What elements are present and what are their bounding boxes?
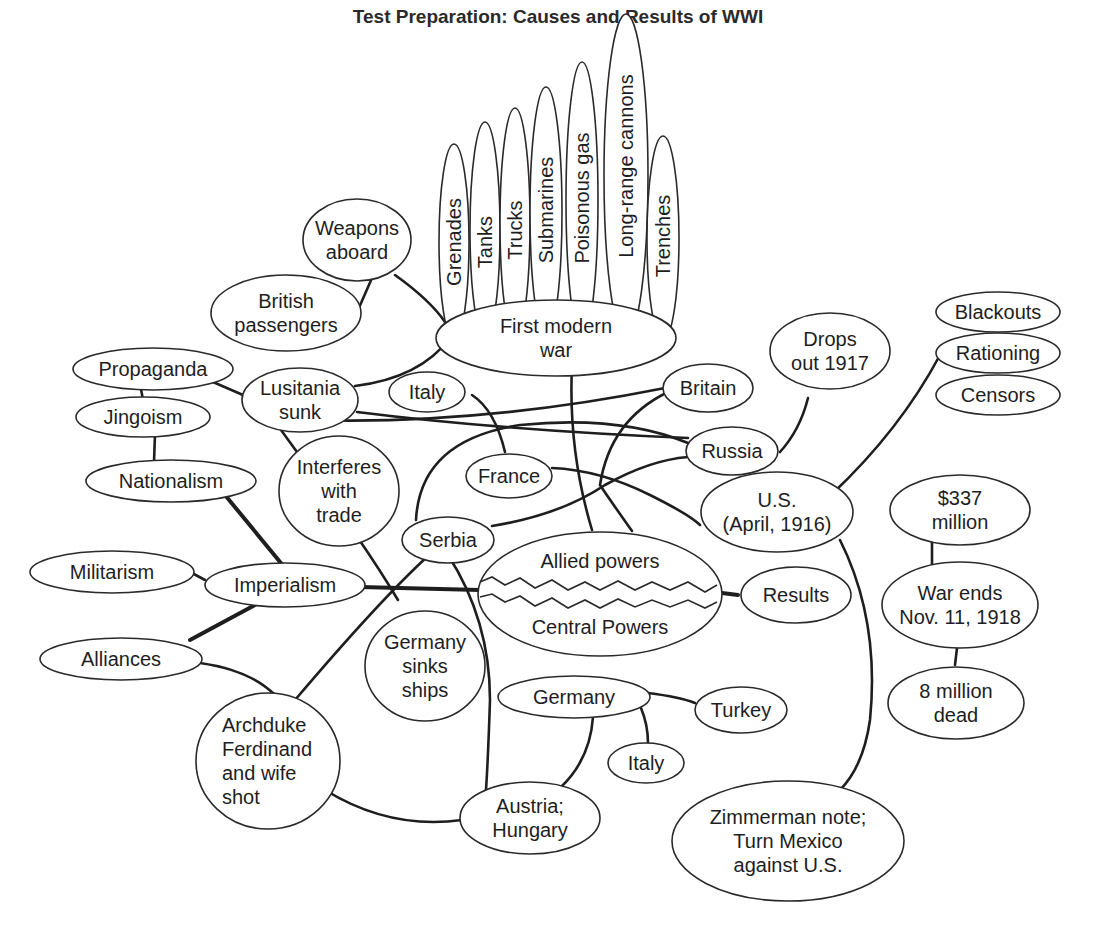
node-propaganda: Propaganda (73, 348, 233, 390)
edge-imperialism-center (360, 587, 480, 590)
node-jingoism: Jingoism (76, 397, 210, 437)
edge-nationalism-imperialism (225, 495, 285, 568)
node-britain: Britain (663, 364, 753, 412)
node-submarines: Submarines (532, 110, 560, 310)
node-militarism: Militarism (30, 551, 194, 593)
edge-russia-dropsout (780, 398, 808, 452)
node-interferes: Interferes with trade (279, 436, 399, 546)
node-war-ends: War ends Nov. 11, 1918 (882, 562, 1038, 648)
node-zimmerman: Zimmerman note; Turn Mexico against U.S. (672, 781, 904, 901)
node-germany-sinks: Germany sinks ships (365, 611, 485, 721)
node-italy-allied: Italy (389, 372, 465, 412)
node-first-modern-war: First modern war (436, 300, 676, 376)
node-lusitania: Lusitania sunk (242, 368, 358, 432)
edge-germany-austria (560, 717, 593, 788)
node-british-passengers: British passengers (211, 275, 361, 351)
node-rationing: Rationing (936, 333, 1060, 373)
node-cost: $337 million (890, 475, 1030, 545)
node-poisonous-gas: Poisonous gas (568, 98, 596, 298)
node-allied-powers: Allied powers (490, 546, 710, 576)
node-archduke: Archduke Ferdinand and wife shot (222, 693, 332, 829)
edge-jingoism-nationalism (154, 434, 155, 462)
edge-france-us (552, 468, 700, 525)
node-france: France (466, 454, 552, 498)
edge-firstwar-allied (571, 366, 592, 530)
edge-lusitania-britain (310, 388, 665, 421)
node-nationalism: Nationalism (86, 460, 256, 502)
node-weapons-aboard: Weapons aboard (303, 200, 411, 280)
edge-warends-dead (955, 648, 957, 665)
node-alliances: Alliances (40, 638, 202, 680)
node-dead: 8 million dead (888, 667, 1024, 739)
node-imperialism: Imperialism (205, 563, 365, 607)
node-censors: Censors (936, 375, 1060, 415)
edge-archduke-austria (325, 790, 462, 822)
node-germany: Germany (498, 676, 650, 718)
node-us: U.S. (April, 1916) (701, 472, 853, 552)
node-russia: Russia (686, 427, 778, 475)
node-long-range-cannons: Long-range cannons (612, 66, 640, 266)
edge-germany-turkey (648, 693, 695, 703)
node-austria: Austria; Hungary (460, 782, 600, 854)
node-serbia: Serbia (402, 517, 494, 563)
node-drops-out: Drops out 1917 (770, 313, 890, 389)
node-blackouts: Blackouts (936, 292, 1060, 332)
node-italy-central: Italy (608, 743, 684, 783)
edge-alliances-archduke (200, 663, 275, 695)
node-central-powers: Central Powers (490, 612, 710, 642)
node-turkey: Turkey (695, 687, 787, 733)
edge-alliances-imperialism (190, 605, 255, 640)
edge-center-results (722, 593, 738, 595)
node-results: Results (741, 567, 851, 623)
